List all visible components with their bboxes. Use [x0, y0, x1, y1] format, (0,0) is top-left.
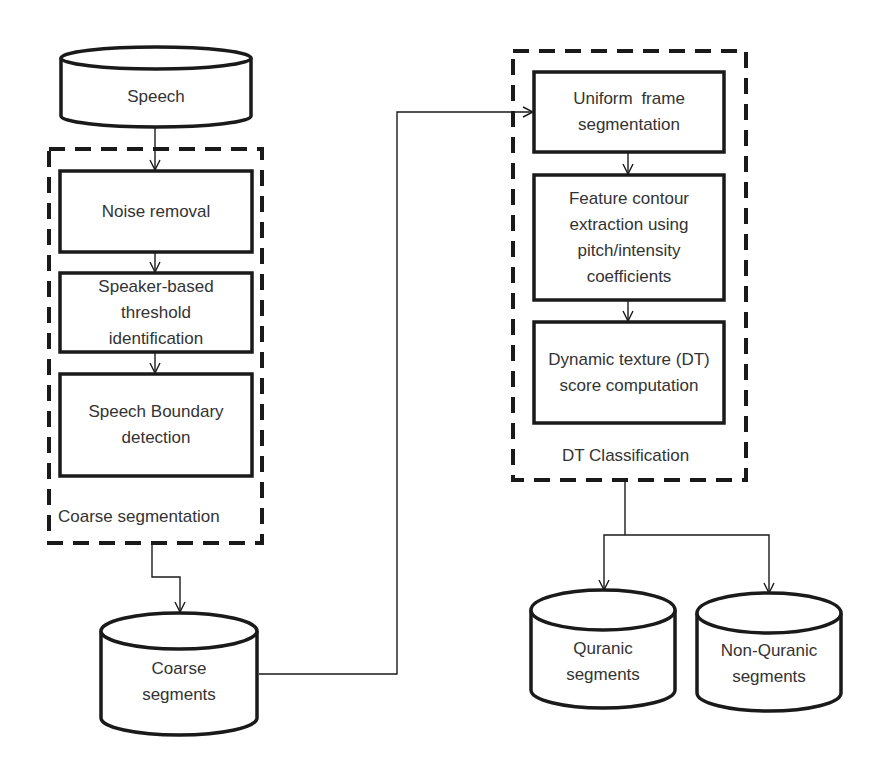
speech-label: Speech	[61, 72, 251, 122]
speech-boundary-label: Speech Boundary detection	[64, 374, 248, 476]
flowchart-diagram: Speech Noise removal Speaker-based thres…	[0, 0, 884, 766]
edge-branch-to-quranic	[604, 535, 625, 590]
coarse-segmentation-label: Coarse segmentation	[58, 507, 220, 527]
quranic-label: Quranic segments	[551, 632, 655, 692]
edge-coarse-segments-to-uniform-frame	[259, 112, 533, 674]
coarse-segments-label: Coarse segments	[120, 650, 238, 714]
speaker-threshold-label: Speaker-based threshold identification	[80, 273, 232, 352]
uniform-frame-label: Uniform frame segmentation	[548, 72, 710, 152]
non-quranic-label: Non-Quranic segments	[705, 634, 833, 694]
edge-coarse-group-to-coarse-segments	[152, 543, 180, 612]
dt-score-label: Dynamic texture (DT) score computation	[548, 322, 710, 423]
feature-contour-label: Feature contour extraction using pitch/i…	[542, 175, 716, 300]
edge-branch-to-non-quranic	[625, 535, 769, 593]
dt-classification-label: DT Classification	[562, 446, 689, 466]
noise-removal-label: Noise removal	[68, 171, 244, 252]
